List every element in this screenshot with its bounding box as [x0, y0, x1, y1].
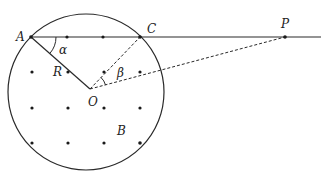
label-O: O	[88, 95, 98, 109]
label-B: B	[116, 124, 126, 138]
lattice-dot	[102, 106, 105, 109]
point-P-dot	[283, 35, 287, 39]
lattice-dot	[138, 70, 141, 73]
lattice-dot	[138, 106, 141, 109]
lattice-dot	[65, 35, 68, 38]
lattice-dot	[30, 141, 33, 144]
geometry-diagram: A C P R O B α β	[0, 0, 331, 181]
dashed-O-P	[90, 37, 285, 89]
angle-alpha-arc	[50, 37, 56, 54]
lattice-dot	[138, 35, 142, 39]
lattice-points	[29, 35, 287, 145]
lattice-dot	[102, 141, 105, 144]
label-P: P	[280, 17, 290, 31]
lattice-dot	[29, 35, 33, 39]
lattice-dot	[30, 106, 33, 109]
lattice-dot	[66, 70, 69, 73]
lattice-dot	[101, 35, 104, 38]
lattice-dot	[30, 70, 33, 73]
label-beta: β	[116, 66, 124, 80]
dashed-O-C	[90, 37, 140, 89]
lattice-dot	[66, 106, 69, 109]
label-R: R	[52, 65, 62, 79]
lattice-dot	[66, 141, 69, 144]
label-alpha: α	[59, 43, 67, 57]
lattice-dot	[102, 70, 105, 73]
lattice-dot	[138, 141, 142, 145]
label-A: A	[15, 30, 25, 44]
angle-beta-arc	[101, 78, 106, 86]
label-C: C	[147, 22, 156, 36]
